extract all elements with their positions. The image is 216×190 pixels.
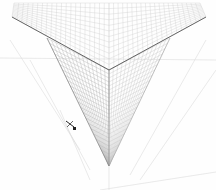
drawing-canvas[interactable] bbox=[0, 0, 216, 190]
perspective-grid-drawing bbox=[0, 0, 216, 190]
top-plane-grid bbox=[12, 3, 206, 70]
perspective-guides bbox=[0, 40, 216, 190]
